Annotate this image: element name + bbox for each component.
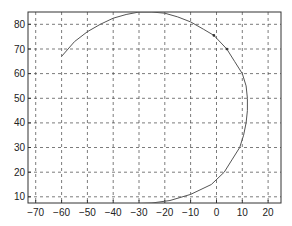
x-tick-label: −10 bbox=[182, 207, 199, 218]
y-tick-label: 20 bbox=[14, 167, 26, 178]
x-tick-label: −40 bbox=[105, 207, 122, 218]
series-line bbox=[62, 12, 248, 204]
y-tick-label: 40 bbox=[14, 117, 26, 128]
x-tick-label: −70 bbox=[27, 207, 44, 218]
data-marker bbox=[213, 34, 216, 37]
y-tick-label: 30 bbox=[14, 142, 26, 153]
grid-lines bbox=[28, 12, 281, 203]
y-tick-label: 60 bbox=[14, 68, 26, 79]
x-tick-label: −20 bbox=[156, 207, 173, 218]
line-chart: −70−60−50−40−30−20−1001020 1020304050607… bbox=[0, 0, 292, 226]
x-tick-label: −60 bbox=[53, 207, 70, 218]
y-tick-label: 70 bbox=[14, 44, 26, 55]
y-tick-label: 50 bbox=[14, 93, 26, 104]
x-tick-label: 20 bbox=[263, 207, 275, 218]
x-tick-label: 10 bbox=[237, 207, 249, 218]
x-tick-label: −30 bbox=[131, 207, 148, 218]
y-tick-label: 80 bbox=[14, 19, 26, 30]
data-series bbox=[62, 12, 248, 204]
y-tick-label: 10 bbox=[14, 191, 26, 202]
plot-area-frame bbox=[28, 12, 281, 203]
x-tick-label: −50 bbox=[79, 207, 96, 218]
x-tick-label: 0 bbox=[214, 207, 220, 218]
data-marker bbox=[226, 48, 229, 51]
